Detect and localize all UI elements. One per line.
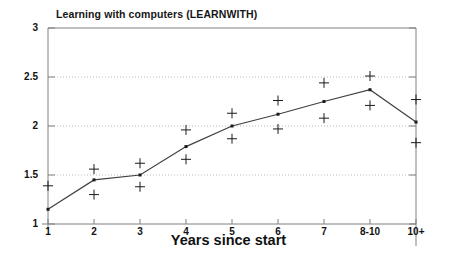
upper-ci-marker <box>43 181 53 191</box>
data-point <box>185 145 188 148</box>
upper-ci-marker <box>227 108 237 118</box>
data-point <box>231 125 234 128</box>
mean-series-line <box>48 90 416 210</box>
mean-line <box>48 90 416 210</box>
upper-ci-marker <box>365 71 375 81</box>
upper-ci-marker <box>319 78 329 88</box>
data-point <box>139 174 142 177</box>
y-axis-tick-label: 2.5 <box>0 71 38 82</box>
y-axis-tick-label: 1.5 <box>0 169 38 180</box>
upper-ci-marker <box>89 164 99 174</box>
data-point <box>93 178 96 181</box>
mean-series-points <box>47 88 418 211</box>
chart-container: Learning with computers (LEARNWITH) 11.5… <box>0 0 457 259</box>
lower-ci-marker <box>227 134 237 144</box>
upper-ci-marker <box>135 158 145 168</box>
data-point <box>323 100 326 103</box>
plot-frame <box>42 28 416 246</box>
lower-ci-marker <box>273 124 283 134</box>
confidence-interval-markers <box>43 71 421 200</box>
y-axis-tick-label: 3 <box>0 22 38 33</box>
lower-ci-marker <box>89 190 99 200</box>
data-point <box>415 121 418 124</box>
upper-ci-marker <box>273 96 283 106</box>
x-axis-title: Years since start <box>0 232 457 248</box>
lower-ci-marker <box>411 138 421 148</box>
lower-ci-marker <box>365 100 375 110</box>
y-axis-tick-label: 2 <box>0 120 38 131</box>
data-point <box>369 88 372 91</box>
upper-ci-marker <box>411 95 421 105</box>
lower-ci-marker <box>319 113 329 123</box>
lower-ci-marker <box>181 154 191 164</box>
data-point <box>47 208 50 211</box>
data-point <box>277 113 280 116</box>
plot-area <box>0 0 457 259</box>
lower-ci-marker <box>135 182 145 192</box>
